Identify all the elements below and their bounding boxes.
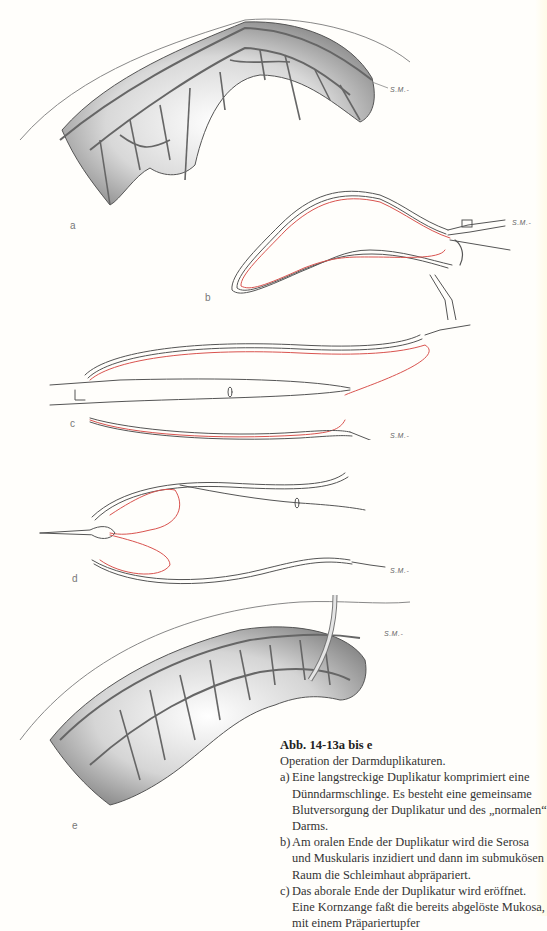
caption-list: a) Eine langstreckige Duplikatur komprim…: [280, 769, 547, 931]
figure-panel-d: [0, 455, 547, 590]
caption-item-text: Am oralen Ende der Duplikatur wird die S…: [292, 835, 544, 881]
duplication-diagram-c: [0, 320, 547, 440]
caption-item-mark: c): [280, 883, 290, 899]
caption-item-c: c) Das aborale Ende der Duplikatur wird …: [280, 883, 547, 931]
figure-panel-c: [0, 320, 547, 440]
caption-item-mark: b): [280, 834, 290, 850]
caption-item-text: Eine langstreckige Duplikatur komprimier…: [292, 770, 547, 833]
artist-signature-e: S.M.-: [384, 630, 403, 637]
artist-signature-b: S.M.-: [512, 219, 531, 226]
figure-panel-b: [0, 180, 547, 320]
artist-signature-c: S.M.-: [390, 432, 409, 439]
panel-label-c: c: [70, 418, 75, 429]
panel-label-e: e: [72, 820, 78, 831]
caption-item-text: Das aborale Ende der Duplikatur wird erö…: [292, 884, 545, 930]
caption-item-b: b) Am oralen Ende der Duplikatur wird di…: [280, 834, 547, 883]
caption-title: Abb. 14-13a bis e: [280, 737, 547, 753]
caption-item-mark: a): [280, 769, 290, 785]
panel-label-d: d: [72, 573, 78, 584]
caption-subtitle: Operation der Darmduplikaturen.: [280, 753, 547, 769]
panel-label-b: b: [205, 292, 211, 303]
artist-signature-a: S.M.-: [390, 86, 409, 93]
caption-item-a: a) Eine langstreckige Duplikatur komprim…: [280, 769, 547, 834]
figure-caption: Abb. 14-13a bis e Operation der Darmdupl…: [280, 737, 547, 931]
duplication-diagram-d: [0, 455, 547, 590]
duplication-diagram-b: [0, 180, 547, 320]
artist-signature-d: S.M.-: [390, 567, 409, 574]
